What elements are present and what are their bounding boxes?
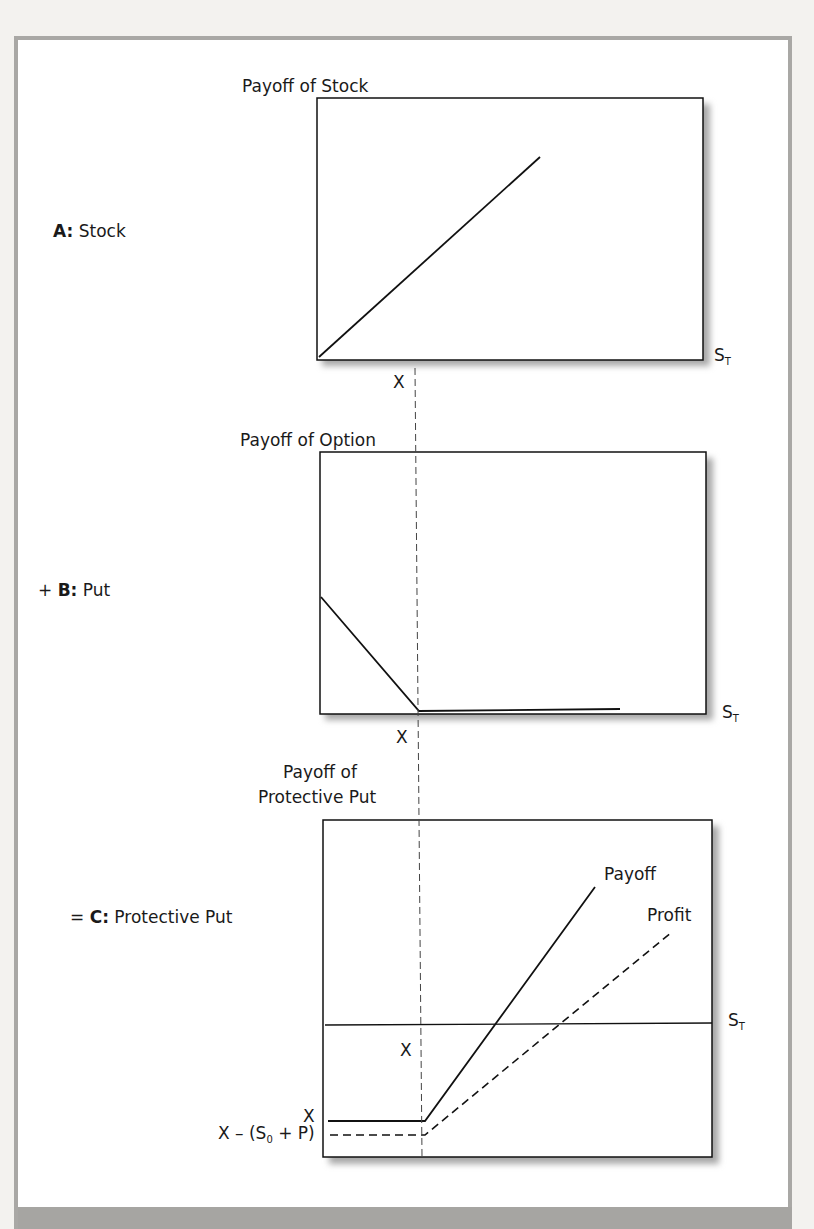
- chart-a-x-axis-label: ST: [714, 345, 731, 367]
- axis-symbol: S: [722, 702, 733, 722]
- chart-b-strike-label: X: [396, 727, 408, 747]
- axis-subscript: T: [739, 1021, 745, 1032]
- axis-symbol: S: [714, 345, 725, 365]
- bottom-band: [18, 1207, 792, 1229]
- chart-a: [317, 98, 710, 366]
- axis-symbol: S: [728, 1010, 739, 1030]
- chart-b: [320, 452, 713, 720]
- chart-c-strike-label: X: [400, 1040, 412, 1060]
- profit-floor-text: X – (S: [218, 1123, 266, 1143]
- chart-a-strike-label: X: [393, 372, 405, 392]
- profit-annotation: Profit: [647, 905, 691, 925]
- chart-b-x-axis-label: ST: [722, 702, 739, 724]
- axis-subscript: T: [733, 713, 739, 724]
- payoff-annotation: Payoff: [604, 864, 656, 884]
- profit-floor-text-end: + P): [273, 1123, 315, 1143]
- profit-floor-label: X – (S0 + P): [218, 1123, 315, 1145]
- axis-subscript: T: [725, 356, 731, 367]
- chart-c-x-axis-label: ST: [728, 1010, 745, 1032]
- chart-c: [323, 820, 719, 1164]
